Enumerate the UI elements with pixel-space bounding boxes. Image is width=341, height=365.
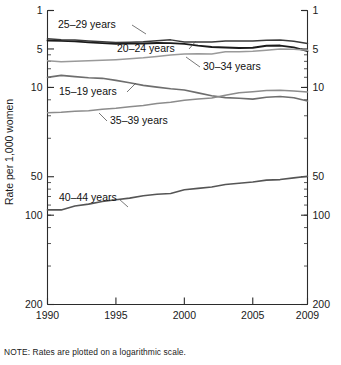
y-tick-label-right: 50 — [313, 170, 325, 182]
series-label-20-24: 20–24 years — [117, 42, 175, 54]
figure-container: 2002001001005050101055111990199520002005… — [0, 0, 341, 365]
series-lines — [48, 39, 308, 210]
y-tick-label-left: 5 — [37, 43, 43, 55]
y-axis-title: Rate per 1,000 women — [3, 99, 15, 205]
axes: 2002001001005050101055111990199520002005… — [25, 4, 330, 320]
leader-line — [119, 199, 128, 207]
series-line-30-34 — [48, 49, 308, 62]
y-tick-label-right: 1 — [313, 4, 319, 16]
y-tick-label-right: 5 — [313, 43, 319, 55]
x-tick-label: 2009 — [296, 309, 320, 321]
leader-line — [127, 83, 136, 92]
chart-note: NOTE: Rates are plotted on a logarithmic… — [4, 347, 186, 357]
series-label-40-44: 40–44 years — [59, 191, 117, 203]
y-tick-label-left: 50 — [31, 170, 43, 182]
y-tick-label-right: 10 — [313, 81, 325, 93]
x-tick-label: 2000 — [173, 309, 197, 321]
series-label-30-34: 30–34 years — [203, 60, 261, 72]
x-tick-label: 1995 — [104, 309, 128, 321]
x-tick-label: 2005 — [241, 309, 265, 321]
x-tick-label: 1990 — [36, 309, 60, 321]
series-label-35-39: 35–39 years — [110, 114, 168, 126]
y-tick-label-right: 100 — [313, 209, 331, 221]
series-label-25-29: 25–29 years — [58, 18, 116, 30]
leader-line — [99, 113, 107, 121]
leader-line — [132, 25, 146, 34]
y-tick-label-left: 10 — [31, 81, 43, 93]
y-tick-label-left: 1 — [37, 4, 43, 16]
series-label-15-19: 15–19 years — [59, 85, 117, 97]
series-annotations: 25–29 years20–24 years30–34 years15–19 y… — [58, 18, 261, 207]
birth-rate-line-chart: 2002001001005050101055111990199520002005… — [0, 0, 341, 341]
leader-line — [186, 57, 200, 67]
y-tick-label-left: 100 — [25, 209, 43, 221]
